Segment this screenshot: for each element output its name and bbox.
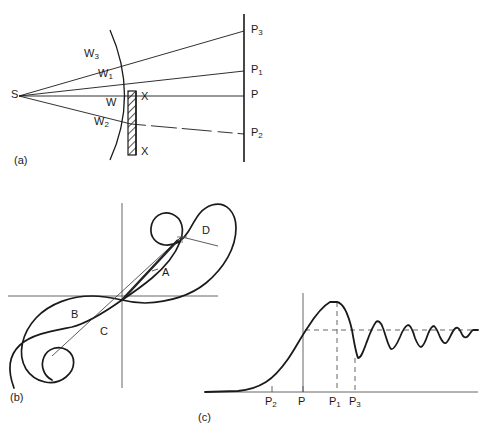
screen-point-label-p: P [251, 89, 258, 100]
panel-a-geometry [19, 14, 244, 162]
intensity-tick-label-p3-sub: 3 [356, 400, 360, 409]
intensity-tick-label-p: P [298, 396, 305, 407]
panel-tag-a: (a) [14, 155, 27, 166]
straight-edge-obstacle [128, 91, 136, 155]
wavefront-label-w1-sub: 1 [108, 72, 112, 81]
label-a-leader [152, 269, 158, 271]
cornu-label-d: D [202, 225, 210, 236]
screen-point-label-p2-sub: 2 [258, 131, 262, 140]
fresnel-intensity-curve [205, 302, 478, 392]
wavefront-label-w3-sub: 3 [94, 52, 98, 61]
screen-point-label-p1: P1 [251, 64, 263, 77]
screen-point-label-p2: P2 [251, 127, 263, 140]
obstacle-label-x-bottom: X [141, 146, 148, 157]
chord-line-c [52, 238, 180, 356]
wavefront-label-w1: W1 [98, 68, 113, 81]
wavefront-label-w2: W2 [94, 116, 109, 129]
intensity-tick-label-p2-sub: 2 [272, 400, 276, 409]
screen-point-label-p3: P3 [251, 24, 263, 37]
cornu-label-a: A [162, 267, 169, 278]
fresnel-diffraction-figure [0, 0, 487, 435]
intensity-tick-label-p3: P3 [349, 396, 361, 409]
panel-c-intensity [205, 293, 478, 392]
chord-line-b-thin [122, 236, 182, 300]
panel-tag-b: (b) [10, 392, 23, 403]
cornu-label-b: B [71, 309, 78, 320]
screen-point-label-p3-sub: 3 [258, 28, 262, 37]
ray-to-p2-dashed [131, 124, 244, 134]
screen-point-label-p1-sub: 1 [258, 68, 262, 77]
intensity-tick-label-p1: P1 [329, 396, 341, 409]
obstacle-label-x-top: X [141, 91, 148, 102]
radius-line-d [182, 237, 218, 246]
intensity-tick-label-p1-sub: 1 [336, 400, 340, 409]
panel-tag-c: (c) [198, 412, 211, 423]
intensity-tick-label-p2: P2 [265, 396, 277, 409]
cornu-label-c: C [100, 326, 108, 337]
source-label-s: S [11, 89, 18, 100]
spherical-wavefront-arc [110, 30, 125, 160]
wavefront-label-w: W [106, 97, 116, 108]
wavefront-label-w3: W3 [84, 48, 99, 61]
wavefront-label-w2-sub: 2 [104, 120, 108, 129]
ray-to-p3 [19, 31, 244, 96]
